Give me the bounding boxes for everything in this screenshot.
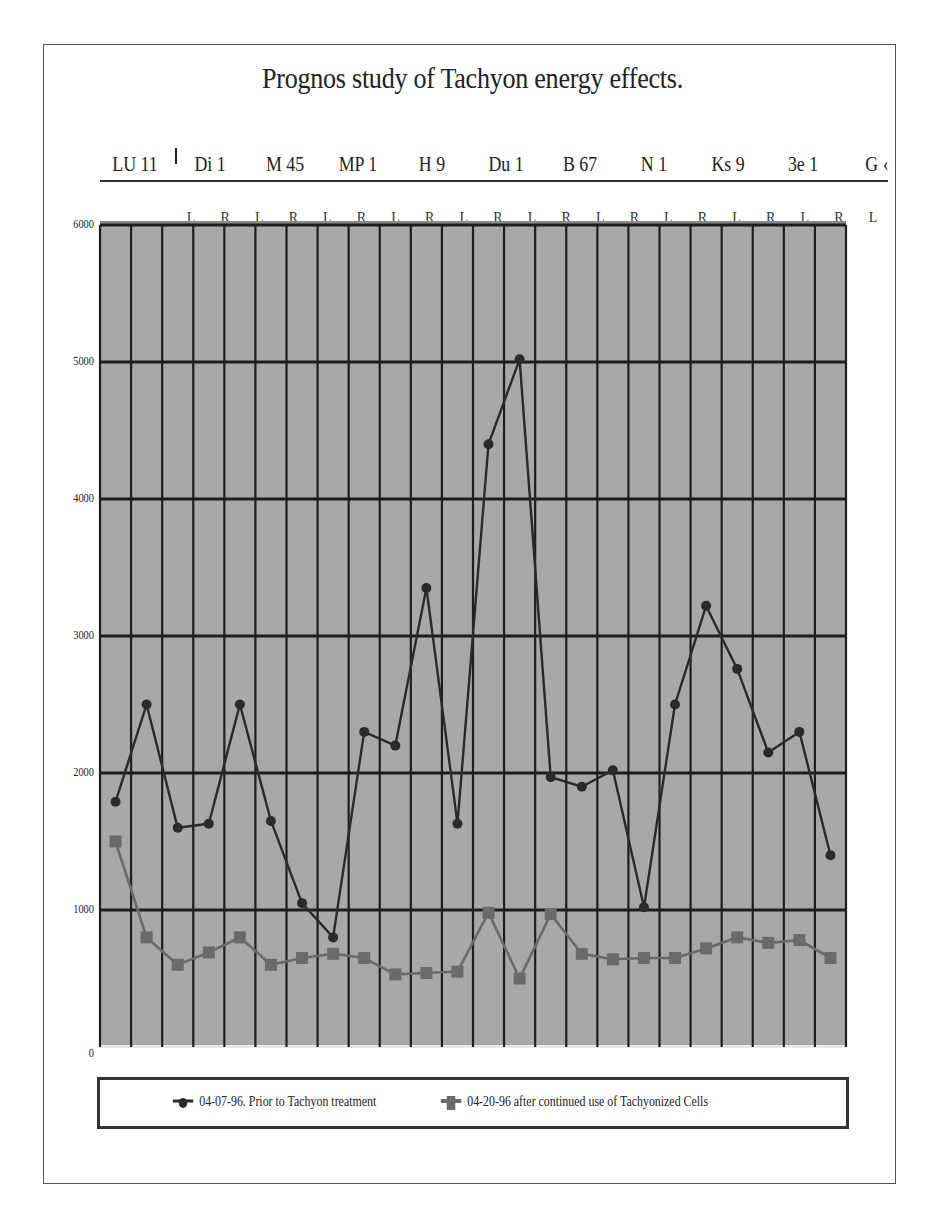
plot-area xyxy=(0,0,945,1228)
data-point-marker xyxy=(141,931,153,943)
data-point-marker xyxy=(359,727,369,737)
data-point-marker xyxy=(110,836,122,848)
data-point-marker xyxy=(576,948,588,960)
data-point-marker xyxy=(793,934,805,946)
data-point-marker xyxy=(762,937,774,949)
data-point-marker xyxy=(389,968,401,980)
data-point-marker xyxy=(203,946,215,958)
data-point-marker xyxy=(732,664,742,674)
data-point-marker xyxy=(669,952,681,964)
data-point-marker xyxy=(546,772,556,782)
data-point-marker xyxy=(234,931,246,943)
data-point-marker xyxy=(608,765,618,775)
data-point-marker xyxy=(297,898,307,908)
data-point-marker xyxy=(700,942,712,954)
data-point-marker xyxy=(452,819,462,829)
data-point-marker xyxy=(607,953,619,965)
legend-label-series-2: 04-20-96 after continued use of Tachyoni… xyxy=(467,1094,708,1109)
data-point-marker xyxy=(235,700,245,710)
data-point-marker xyxy=(420,967,432,979)
data-point-marker xyxy=(265,959,277,971)
data-point-marker xyxy=(670,700,680,710)
data-point-marker xyxy=(577,782,587,792)
data-point-marker xyxy=(515,354,525,364)
data-point-marker xyxy=(825,850,835,860)
data-point-marker xyxy=(327,948,339,960)
data-point-marker xyxy=(451,966,463,978)
data-point-marker xyxy=(545,908,557,920)
data-point-marker xyxy=(824,952,836,964)
data-point-marker xyxy=(172,959,184,971)
data-point-marker xyxy=(111,797,121,807)
data-point-marker xyxy=(142,700,152,710)
data-point-marker xyxy=(204,819,214,829)
data-point-marker xyxy=(638,952,650,964)
data-point-marker xyxy=(296,952,308,964)
square-marker-icon xyxy=(440,1095,462,1111)
data-point-marker xyxy=(639,902,649,912)
data-point-marker xyxy=(390,741,400,751)
data-point-marker xyxy=(358,952,370,964)
data-point-marker xyxy=(483,907,495,919)
data-point-marker xyxy=(701,601,711,611)
data-point-marker xyxy=(266,816,276,826)
data-point-marker xyxy=(514,973,526,985)
legend: 04-07-96. Prior to Tachyon treatment 04-… xyxy=(97,1077,849,1129)
data-point-marker xyxy=(484,439,494,449)
data-point-marker xyxy=(328,932,338,942)
data-point-marker xyxy=(173,823,183,833)
data-point-marker xyxy=(731,931,743,943)
legend-item-series-1: 04-07-96. Prior to Tachyon treatment xyxy=(172,1094,376,1110)
data-point-marker xyxy=(763,747,773,757)
circle-marker-icon xyxy=(172,1096,194,1110)
data-point-marker xyxy=(794,727,804,737)
data-point-marker xyxy=(421,583,431,593)
legend-label-series-1: 04-07-96. Prior to Tachyon treatment xyxy=(199,1094,376,1109)
legend-item-series-2: 04-20-96 after continued use of Tachyoni… xyxy=(440,1094,708,1111)
